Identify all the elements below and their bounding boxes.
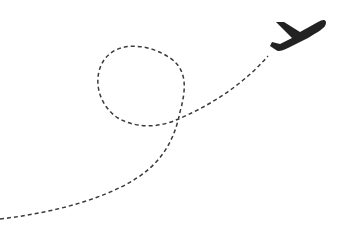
airplane-icon (270, 20, 326, 51)
illustration-canvas (0, 0, 350, 228)
dashed-flight-path (0, 46, 268, 219)
flight-path-illustration (0, 0, 350, 228)
